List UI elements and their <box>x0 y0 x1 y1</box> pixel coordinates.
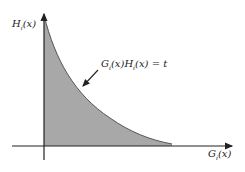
y-axis-label: Hi(x) <box>12 18 36 31</box>
shaded-region <box>44 15 172 146</box>
eq-g-arg: (x) <box>111 58 124 69</box>
y-label-arg: (x) <box>23 18 36 29</box>
x-label-arg: (x) <box>218 148 231 159</box>
x-label-main: G <box>208 148 216 159</box>
eq-h-arg: (x) <box>135 58 148 69</box>
eq-h: H <box>124 58 133 69</box>
eq-g: G <box>101 58 109 69</box>
curve-equation-label: Gi(x)Hi(x) = t <box>101 58 167 71</box>
annotation-arrow <box>83 70 98 86</box>
hyperbola-diagram <box>0 0 245 172</box>
y-label-main: H <box>12 18 21 29</box>
x-axis-label: Gi(x) <box>208 148 231 161</box>
eq-rhs: = t <box>148 58 167 69</box>
